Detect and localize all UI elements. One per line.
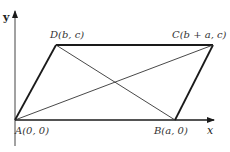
point-label-c: C(b + a, c)	[172, 29, 227, 40]
y-axis-label: y	[2, 11, 10, 24]
point-label-a: A(0, 0)	[14, 125, 49, 136]
point-label-d: D(b, c)	[49, 29, 84, 40]
side-CB	[175, 45, 213, 120]
diagonal-AC	[15, 45, 213, 120]
point-label-b: B(a, 0)	[153, 125, 188, 136]
diagonal-DB	[56, 45, 175, 120]
diagram-canvas: y x A(0, 0) B(a, 0) C(b + a, c) D(b, c)	[0, 0, 230, 152]
parallelogram-diagram: y x A(0, 0) B(a, 0) C(b + a, c) D(b, c)	[0, 0, 230, 152]
side-AD	[15, 45, 56, 120]
x-axis-label: x	[207, 124, 214, 137]
